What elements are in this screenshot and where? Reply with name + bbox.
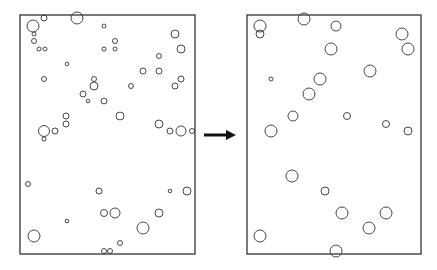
circle-particle (155, 209, 163, 217)
circle-particle (157, 54, 162, 59)
circle-particle (113, 39, 118, 44)
circle-particle (27, 20, 39, 32)
circle-particle (28, 230, 40, 242)
panel-frame-after (247, 15, 421, 254)
circle-particle (177, 45, 185, 53)
circle-particle (325, 43, 337, 55)
circle-particle (116, 112, 124, 120)
circle-particle (330, 245, 342, 257)
circle-particle (65, 62, 69, 66)
circle-particle (336, 207, 348, 219)
circle-particle (86, 99, 90, 103)
circle-particle (113, 47, 117, 51)
circle-particle (256, 30, 264, 38)
circle-particle (364, 65, 376, 77)
circle-particle (396, 28, 408, 40)
circle-particle (110, 208, 120, 218)
circle-particle (314, 73, 326, 85)
circle-particle (39, 126, 50, 137)
circle-particle (167, 128, 173, 134)
circle-particle (265, 125, 277, 137)
circle-particle (129, 84, 134, 89)
circle-particle (183, 187, 191, 195)
circle-particle (118, 241, 123, 246)
circle-particle (71, 12, 83, 24)
circle-particle (80, 91, 86, 97)
circle-particle (363, 222, 375, 234)
circle-particle (172, 83, 178, 89)
circle-particle (101, 210, 108, 217)
circle-particle (102, 24, 106, 28)
circle-particle (380, 207, 392, 219)
circle-particle (288, 111, 298, 121)
circle-particle (43, 47, 47, 51)
circle-particle (108, 249, 113, 254)
circle-particle (92, 77, 97, 82)
panel-after (247, 13, 421, 257)
circle-particle (344, 113, 351, 120)
circle-particle (383, 121, 390, 128)
circle-particle (90, 82, 98, 90)
circle-particle (331, 21, 341, 31)
circle-particle (402, 43, 414, 55)
circle-particle (63, 113, 69, 119)
circle-particle (168, 189, 172, 193)
circle-particle (42, 137, 46, 141)
circle-particle (41, 15, 47, 21)
circle-particle (102, 249, 107, 254)
particle-transformation-diagram (0, 0, 437, 270)
circle-particle (42, 77, 47, 82)
circle-particle (96, 188, 102, 194)
circle-particle (286, 170, 298, 182)
circle-particle (171, 30, 179, 38)
circle-particle (178, 76, 184, 82)
circle-particle (32, 39, 37, 44)
circle-particle (140, 68, 146, 74)
circle-particle (65, 219, 69, 223)
circle-particle (321, 187, 329, 195)
panel-before (20, 12, 195, 254)
circle-particle (404, 127, 412, 135)
circle-particle (137, 222, 149, 234)
circle-particle (37, 47, 41, 51)
circle-particle (63, 121, 69, 127)
circle-particle (101, 98, 107, 104)
circle-particle (176, 126, 186, 136)
arrow-head (226, 130, 236, 140)
circle-particle (26, 182, 31, 187)
circle-particle (155, 120, 163, 128)
circle-particle (303, 88, 315, 100)
circle-particle (102, 47, 106, 51)
circle-particle (52, 128, 58, 134)
circle-particle (254, 230, 266, 242)
circle-particle (32, 32, 36, 36)
circle-particle (269, 77, 273, 81)
circle-particle (190, 129, 195, 134)
right-arrow-icon (204, 130, 236, 140)
circle-particle (156, 68, 162, 74)
